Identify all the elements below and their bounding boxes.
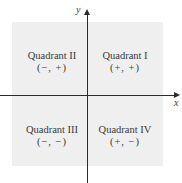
quadrant-1-name: Quadrant I [102,50,147,61]
quadrant-1-signs: (+, +) [90,62,160,74]
quadrant-3-name: Quadrant III [26,124,78,135]
quadrant-4-name: Quadrant IV [99,124,152,135]
quadrant-1: Quadrant I (+, +) [90,50,160,74]
x-axis [0,95,176,96]
quadrant-3-signs: (−, −) [17,136,87,148]
x-axis-label: x [174,97,178,108]
y-axis-arrow-icon [84,9,90,15]
quadrant-4-signs: (+, −) [90,136,160,148]
y-axis-label: y [76,4,80,15]
quadrant-2-signs: (−, +) [17,62,87,74]
quadrant-2: Quadrant II (−, +) [17,50,87,74]
quadrant-3: Quadrant III (−, −) [17,124,87,148]
quadrant-4: Quadrant IV (+, −) [90,124,160,148]
quadrant-2-name: Quadrant II [28,50,77,61]
y-axis [87,12,88,183]
